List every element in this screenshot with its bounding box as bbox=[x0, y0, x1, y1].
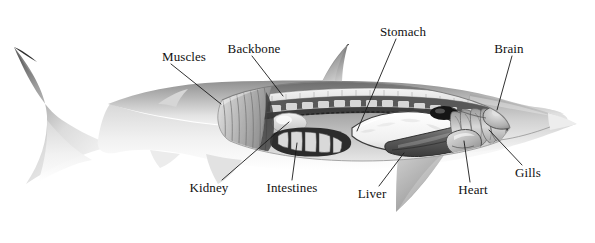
shark-anatomy-figure: Muscles Backbone Stomach Brain Gills Hea… bbox=[0, 0, 595, 243]
caudal-tail-fin bbox=[14, 47, 114, 184]
label-liver: Liver bbox=[358, 187, 387, 200]
label-kidney: Kidney bbox=[190, 181, 229, 194]
anal-fin bbox=[150, 150, 180, 168]
label-muscles: Muscles bbox=[162, 50, 206, 63]
label-heart: Heart bbox=[458, 183, 487, 196]
label-stomach: Stomach bbox=[380, 25, 426, 38]
label-gills: Gills bbox=[515, 166, 541, 179]
label-intestines: Intestines bbox=[267, 181, 318, 194]
spiral-valve-intestine bbox=[270, 128, 351, 157]
label-brain: Brain bbox=[494, 42, 523, 55]
shark-anatomy-illustration bbox=[0, 0, 595, 243]
label-backbone: Backbone bbox=[228, 42, 281, 55]
